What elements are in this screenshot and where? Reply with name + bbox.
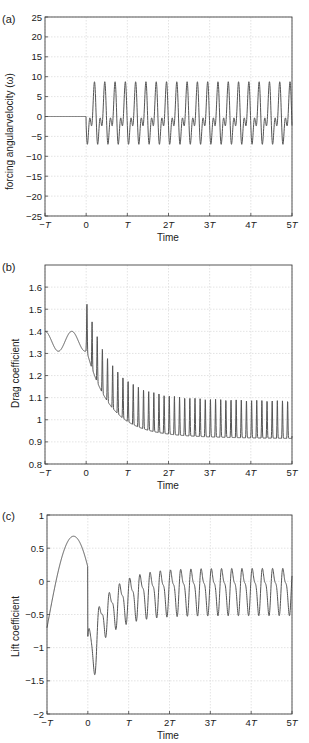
y-tick-label: −20 — [26, 191, 42, 202]
y-tick-label: −15 — [26, 171, 42, 182]
x-tick-label: 5T — [286, 219, 298, 230]
x-tick-label: 5T — [286, 467, 298, 478]
y-tick-label: 0 — [37, 111, 42, 122]
x-tick-label: 4T — [245, 467, 257, 478]
panel-c: (c) −T0T2T3T4T5T−2−1.5−1−0.500.51 Lift c… — [0, 497, 309, 743]
x-tick-label: 0 — [84, 467, 89, 478]
y-tick-label: −1.5 — [25, 675, 44, 686]
y-tick-label: 1.2 — [29, 370, 42, 381]
y-tick-label: −25 — [26, 211, 42, 222]
y-tick-label: −1 — [33, 642, 44, 653]
y-tick-label: 1 — [37, 414, 42, 425]
y-tick-label: 10 — [31, 71, 42, 82]
data-line — [45, 82, 292, 145]
panel-a: (a) −T0T2T3T4T5T−25−20−15−10−50510152025… — [0, 0, 309, 245]
x-axis-label-a: Time — [138, 232, 198, 243]
y-tick-label: 1.3 — [29, 348, 42, 359]
chart-lift-coefficient: −T0T2T3T4T5T−2−1.5−1−0.500.51 — [0, 497, 309, 743]
panel-b: (b) −T0T2T3T4T5T0.80.911.11.21.31.41.51.… — [0, 248, 309, 493]
x-tick-label: 2T — [163, 467, 175, 478]
y-axis-label-b: Drag coefficient — [10, 339, 21, 408]
y-tick-label: 5 — [37, 91, 42, 102]
x-tick-label: 3T — [204, 467, 216, 478]
y-tick-label: 15 — [31, 51, 42, 62]
y-tick-label: 0.5 — [31, 543, 44, 554]
y-tick-label: 25 — [31, 12, 42, 23]
y-tick-label: −0.5 — [25, 609, 44, 620]
y-tick-label: 0 — [39, 576, 44, 587]
x-tick-label: 0 — [85, 717, 90, 728]
x-tick-label: 0 — [84, 219, 89, 230]
y-tick-label: −5 — [31, 131, 42, 142]
chart-drag-coefficient: −T0T2T3T4T5T0.80.911.11.21.31.41.51.6 — [0, 248, 309, 493]
y-axis-label-c: Lift coefficient — [10, 596, 21, 657]
x-axis-label-c: Time — [138, 730, 198, 741]
chart-forcing-angular-velocity: −T0T2T3T4T5T−25−20−15−10−50510152025 — [0, 0, 309, 245]
x-axis-label-b: Time — [138, 480, 198, 491]
x-tick-label: 4T — [246, 717, 258, 728]
x-tick-label: 3T — [204, 219, 216, 230]
y-tick-label: 20 — [31, 31, 42, 42]
y-tick-label: 0.9 — [29, 436, 42, 447]
y-tick-label: −10 — [26, 151, 42, 162]
x-tick-label: 2T — [164, 717, 176, 728]
x-tick-label: 5T — [286, 717, 298, 728]
x-tick-label: T — [126, 717, 133, 728]
y-axis-label-a: forcing angularvelocity (ω) — [4, 73, 15, 190]
y-tick-label: 1.5 — [29, 304, 42, 315]
y-tick-label: 1.1 — [29, 392, 42, 403]
x-tick-label: T — [124, 467, 131, 478]
x-tick-label: 4T — [245, 219, 257, 230]
x-tick-label: T — [124, 219, 131, 230]
x-tick-label: 3T — [205, 717, 217, 728]
grid — [47, 515, 292, 714]
y-tick-label: 0.8 — [29, 459, 42, 470]
y-tick-label: 1.4 — [29, 326, 42, 337]
x-tick-label: 2T — [163, 219, 175, 230]
y-tick-label: −2 — [33, 709, 44, 720]
y-tick-label: 1.6 — [29, 282, 42, 293]
y-tick-label: 1 — [39, 510, 44, 521]
